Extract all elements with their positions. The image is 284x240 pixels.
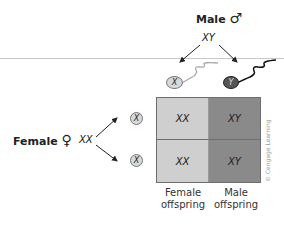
arrow-to-x-sperm: [180, 45, 200, 62]
arrow-to-y-sperm: [219, 45, 237, 62]
egg-top: X: [130, 112, 143, 125]
cell-r2-c1: XX: [157, 140, 209, 182]
x-sperm-allele: X: [172, 78, 177, 87]
y-sperm-head: Y: [223, 76, 239, 89]
column-label-male-line1: Male: [208, 187, 264, 199]
cell-r1-c2: XY: [209, 98, 260, 140]
column-label-female-line2: offspring: [156, 199, 210, 211]
arrow-to-egg-bottom: [96, 145, 117, 161]
female-symbol-icon: ♀: [62, 132, 72, 148]
credit-text: © Cengage Learning: [264, 119, 271, 182]
egg-top-allele: X: [134, 114, 139, 123]
column-label-male-line2: offspring: [208, 199, 264, 211]
female-genotype: XX: [79, 134, 93, 145]
column-label-male: Male offspring: [208, 187, 264, 211]
column-label-female: Female offspring: [156, 187, 210, 211]
x-sperm-head: X: [166, 76, 183, 89]
female-text: Female: [13, 135, 58, 148]
female-label: Female ♀: [13, 132, 72, 148]
column-label-female-line1: Female: [156, 187, 210, 199]
punnett-square: XX XY XX XY: [156, 97, 261, 183]
cell-r2-c2: XY: [209, 140, 260, 182]
egg-bottom-allele: X: [134, 156, 139, 165]
egg-bottom: X: [130, 154, 143, 167]
y-sperm-allele: Y: [229, 78, 234, 87]
arrow-to-egg-top: [96, 118, 117, 137]
cell-r1-c1: XX: [157, 98, 209, 140]
